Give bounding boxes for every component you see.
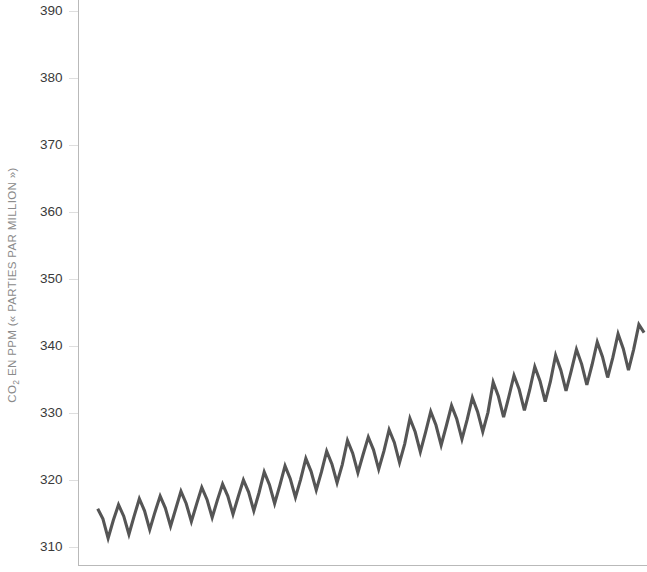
- y-axis-tick-labels: 310320330340350360370380390: [40, 3, 63, 554]
- chart-canvas: 310320330340350360370380390 CO2 EN PPM (…: [0, 0, 647, 572]
- y-tick-label: 330: [40, 405, 63, 420]
- y-tick-label: 310: [40, 539, 63, 554]
- y-axis-title-prefix: CO: [6, 385, 18, 403]
- y-axis-title: CO2 EN PPM (« PARTIES PAR MILLION »): [6, 167, 21, 402]
- co2-line-chart: 310320330340350360370380390 CO2 EN PPM (…: [0, 0, 647, 572]
- svg-text:CO2 EN PPM (« PARTIES PAR MILL: CO2 EN PPM (« PARTIES PAR MILLION »): [6, 167, 21, 402]
- y-tick-label: 320: [40, 472, 63, 487]
- y-tick-label: 390: [40, 3, 63, 18]
- y-tick-label: 360: [40, 204, 63, 219]
- y-axis-title-suffix: EN PPM (« PARTIES PAR MILLION »): [6, 167, 18, 379]
- y-tick-label: 340: [40, 338, 63, 353]
- y-tick-label: 370: [40, 137, 63, 152]
- y-tick-label: 380: [40, 70, 63, 85]
- data-series-line: [98, 325, 644, 539]
- y-tick-label: 350: [40, 271, 63, 286]
- y-axis-tick-marks: [69, 12, 79, 548]
- series-group: [98, 325, 644, 539]
